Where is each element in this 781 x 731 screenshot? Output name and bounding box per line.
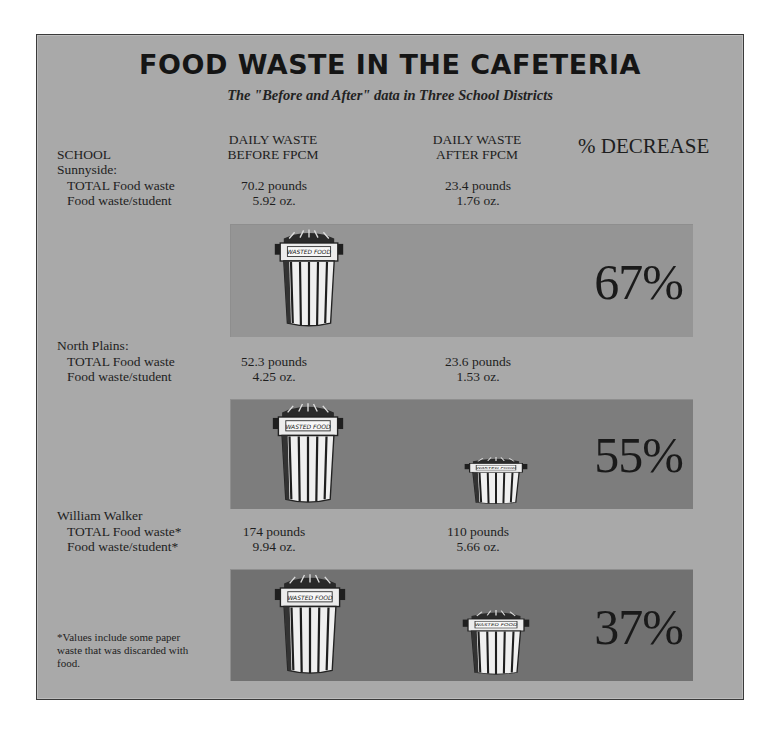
decrease-percent: 37% xyxy=(594,598,683,656)
trash-can-after-icon xyxy=(461,610,531,676)
infographic-frame: FOOD WASTE IN THE CAFETERIA The "Before … xyxy=(36,34,744,700)
before-student-value: 4.25 oz. xyxy=(204,369,344,385)
trash-can-before-icon xyxy=(273,227,345,331)
before-student-value: 9.94 oz. xyxy=(204,539,344,555)
before-total-value: 52.3 pounds xyxy=(204,354,344,370)
header-before: DAILY WASTE BEFORE FPCM xyxy=(213,132,333,162)
after-total-value: 23.6 pounds xyxy=(408,354,548,370)
school-name: William Walker xyxy=(57,508,142,524)
header-after-line2: AFTER FPCM xyxy=(417,147,537,162)
header-after: DAILY WASTE AFTER FPCM xyxy=(417,132,537,162)
header-before-line2: BEFORE FPCM xyxy=(213,147,333,162)
header-decrease: % DECREASE xyxy=(578,139,709,154)
trash-can-after-icon xyxy=(463,457,529,505)
before-total-value: 174 pounds xyxy=(204,524,344,540)
total-waste-label: TOTAL Food waste xyxy=(67,178,175,194)
total-waste-label: TOTAL Food waste* xyxy=(67,524,181,540)
school-name: Sunnyside: xyxy=(57,162,117,178)
header-before-line1: DAILY WASTE xyxy=(213,132,333,147)
after-student-value: 5.66 oz. xyxy=(408,539,548,555)
total-waste-label: TOTAL Food waste xyxy=(67,354,175,370)
before-student-value: 5.92 oz. xyxy=(204,193,344,209)
school-name: North Plains: xyxy=(57,338,129,354)
page-subtitle: The "Before and After" data in Three Sch… xyxy=(37,87,743,104)
trash-can-before-icon xyxy=(273,573,347,677)
after-student-value: 1.53 oz. xyxy=(408,369,548,385)
per-student-label: Food waste/student xyxy=(67,193,172,209)
per-student-label: Food waste/student xyxy=(67,369,172,385)
trash-can-before-icon xyxy=(271,402,345,506)
before-total-value: 70.2 pounds xyxy=(204,178,344,194)
after-total-value: 110 pounds xyxy=(408,524,548,540)
trash-can-after-icon xyxy=(464,294,528,328)
comparison-panel-william-walker: 37% xyxy=(230,569,693,681)
comparison-panel-sunnyside: 67% xyxy=(230,224,693,337)
after-total-value: 23.4 pounds xyxy=(408,178,548,194)
decrease-percent: 67% xyxy=(594,253,683,311)
header-after-line1: DAILY WASTE xyxy=(417,132,537,147)
comparison-panel-north-plains: 55% xyxy=(230,399,693,509)
footnote: *Values include some paper waste that wa… xyxy=(57,631,197,670)
decrease-percent: 55% xyxy=(594,426,683,484)
after-student-value: 1.76 oz. xyxy=(408,193,548,209)
per-student-label: Food waste/student* xyxy=(67,539,178,555)
header-school: SCHOOL xyxy=(57,147,111,162)
page-title: FOOD WASTE IN THE CAFETERIA xyxy=(37,49,743,80)
